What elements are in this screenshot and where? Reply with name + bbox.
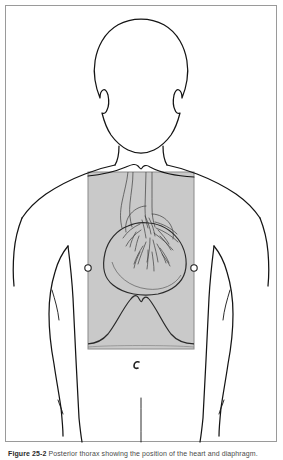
arm-left-inner (49, 246, 68, 436)
figure-caption: Figure 25-2 Posterior thorax showing the… (8, 449, 258, 458)
head-outline (94, 19, 187, 153)
arm-left-outer (13, 218, 22, 286)
neck-right (163, 146, 167, 165)
anatomical-illustration (0, 0, 283, 448)
figure-caption-strip: Figure 25-2 Posterior thorax showing the… (0, 449, 283, 460)
figure-page: Figure 25-2 Posterior thorax showing the… (0, 0, 283, 460)
torso-right-side (200, 246, 214, 442)
arm-right-outer (260, 218, 269, 286)
apex-mark-icon (134, 362, 139, 369)
electrode-marker-right (191, 265, 197, 271)
figure-caption-body: Posterior thorax showing the position of… (49, 450, 258, 457)
figure-caption-number: Figure 25-2 (8, 450, 46, 457)
arm-left-crease (52, 290, 59, 320)
arm-right-inner (214, 246, 233, 436)
torso-left-side (68, 246, 82, 442)
electrode-marker-left (85, 265, 91, 271)
neck-left (115, 146, 119, 165)
arm-right-crease (223, 290, 230, 320)
illustration-svg (0, 0, 283, 448)
